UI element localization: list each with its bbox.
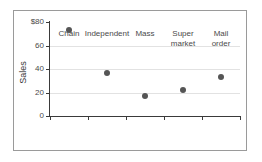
x-tick-mark xyxy=(240,116,241,120)
x-tick-mark xyxy=(126,116,127,120)
y-tick-label: 20 xyxy=(35,89,44,97)
x-tick-mark xyxy=(202,116,203,120)
data-point xyxy=(218,74,224,80)
y-tick-mark xyxy=(46,69,50,70)
x-tick-label-line: order xyxy=(212,39,231,49)
chart-figure: Sales 0204060$80 ChainIndependentMassSup… xyxy=(0,0,262,162)
y-tick-label: 0 xyxy=(40,112,44,120)
x-axis-line xyxy=(49,116,240,117)
x-tick-mark xyxy=(164,116,165,120)
x-tick-mark xyxy=(88,116,89,120)
x-tick-mark xyxy=(50,116,51,120)
x-tick-label-line: market xyxy=(171,39,195,49)
x-tick-label-line: Mass xyxy=(135,29,154,39)
y-tick-label: 40 xyxy=(35,65,44,73)
x-tick-label: Mass xyxy=(135,29,154,39)
plot-area: 0204060$80 ChainIndependentMassSupermark… xyxy=(50,22,240,116)
x-tick-label-line: Super xyxy=(171,29,195,39)
x-tick-label-line: Mail xyxy=(212,29,231,39)
y-axis-title-text: Sales xyxy=(19,61,28,84)
x-tick-label-line: Independent xyxy=(85,29,130,39)
x-tick-label: Independent xyxy=(85,29,130,39)
data-point xyxy=(142,93,148,99)
x-tick-label: Supermarket xyxy=(171,29,195,49)
data-point xyxy=(104,70,110,76)
y-tick-label: 60 xyxy=(35,42,44,50)
y-tick-label: $80 xyxy=(31,18,44,26)
y-tick-mark xyxy=(46,93,50,94)
gridline xyxy=(50,69,240,70)
y-tick-mark xyxy=(46,22,50,23)
x-tick-label: Mailorder xyxy=(212,29,231,49)
y-tick-mark xyxy=(46,46,50,47)
y-axis-title: Sales xyxy=(17,50,29,94)
